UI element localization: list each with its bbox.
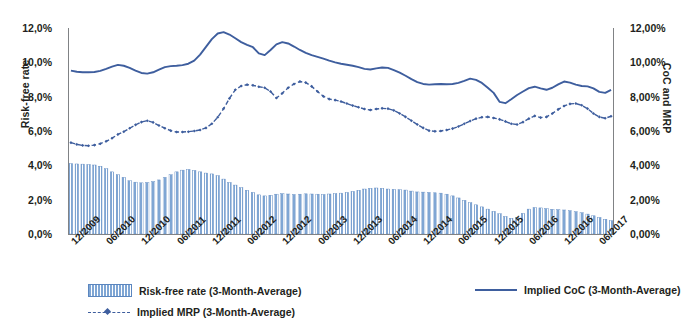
x-tick-label-2: 12/2010 [139,213,172,246]
chart-container: Risk-free rate CoC and MRP 12,0%10,0%8,0… [0,0,685,324]
x-tick-label-14: 12/2016 [562,213,595,246]
x-tick-label-8: 12/2013 [351,213,384,246]
legend-dashed-line-icon [88,307,130,318]
x-tick-label-15: 06/2017 [597,213,630,246]
legend-solid-line-icon [475,289,517,291]
x-tick-label-13: 06/2016 [527,213,560,246]
x-tick-label-7: 06/2013 [316,213,349,246]
x-tick-label-0: 12/2009 [69,213,102,246]
x-tick-label-9: 06/2014 [386,213,419,246]
x-tick-label-5: 06/2012 [245,213,278,246]
chart-legend: Risk-free rate (3-Month-Average)Implied … [60,282,685,324]
legend-label: Implied MRP (3-Month-Average) [137,306,295,318]
legend-label: Implied CoC (3-Month-Average) [524,284,681,296]
x-tick-label-6: 12/2012 [280,213,313,246]
legend-item-0[interactable]: Risk-free rate (3-Month-Average) [88,284,301,297]
x-tick-label-4: 12/2011 [210,214,243,247]
legend-item-1[interactable]: Implied CoC (3-Month-Average) [475,284,681,296]
x-tick-label-3: 06/2011 [175,214,208,247]
legend-bar-swatch-icon [88,284,132,297]
legend-label: Risk-free rate (3-Month-Average) [139,285,301,297]
x-tick-label-11: 06/2015 [456,213,489,246]
x-tick-label-12: 12/2015 [492,213,525,246]
x-tick-label-1: 06/2010 [104,213,137,246]
x-axis-ticks: 12/200906/201012/201006/201112/201106/20… [0,0,685,324]
legend-item-2[interactable]: Implied MRP (3-Month-Average) [88,306,295,318]
x-tick-label-10: 12/2014 [421,213,454,246]
